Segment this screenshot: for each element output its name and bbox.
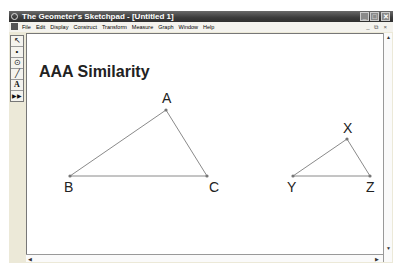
label-y[interactable]: Y <box>287 179 296 195</box>
label-x[interactable]: X <box>343 120 352 136</box>
point-y[interactable] <box>291 174 294 177</box>
triangle-abc[interactable] <box>70 110 207 176</box>
label-a[interactable]: A <box>162 90 171 106</box>
triangle-xyz[interactable] <box>293 139 370 176</box>
sketch-heading[interactable]: AAA Similarity <box>39 63 150 81</box>
label-c[interactable]: C <box>209 179 219 195</box>
sketch-drawing <box>0 0 401 272</box>
point-a[interactable] <box>164 108 167 111</box>
point-z[interactable] <box>368 174 371 177</box>
label-b[interactable]: B <box>64 179 73 195</box>
point-c[interactable] <box>205 174 208 177</box>
label-z[interactable]: Z <box>366 179 375 195</box>
point-b[interactable] <box>68 174 71 177</box>
point-x[interactable] <box>345 137 348 140</box>
